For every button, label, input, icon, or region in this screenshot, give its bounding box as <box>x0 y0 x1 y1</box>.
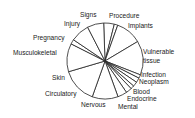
label-pregnancy: Pregnancy <box>33 34 65 41</box>
label-vulnerable: Vulnerable <box>143 48 174 55</box>
label-musculo: Musculokeletal <box>13 49 57 56</box>
label-procedure: Procedure <box>109 12 139 19</box>
label-infection: Infection <box>141 71 166 78</box>
label-neoplasm: Neoplasm <box>139 78 169 85</box>
label-skin: Skin <box>52 74 65 81</box>
label-blood: Blood <box>133 88 150 95</box>
label-circulatory: Circulatory <box>45 90 77 97</box>
label-implants: Implants <box>128 22 153 29</box>
label-tissue: tissue <box>143 57 160 64</box>
pie-slices <box>67 23 143 99</box>
label-nervous: Nervous <box>81 101 106 108</box>
label-signs: Signs <box>80 11 97 18</box>
label-injury: Injury <box>64 20 80 27</box>
label-mental: Mental <box>118 103 138 110</box>
label-endocrine: Endocrine <box>127 95 157 102</box>
